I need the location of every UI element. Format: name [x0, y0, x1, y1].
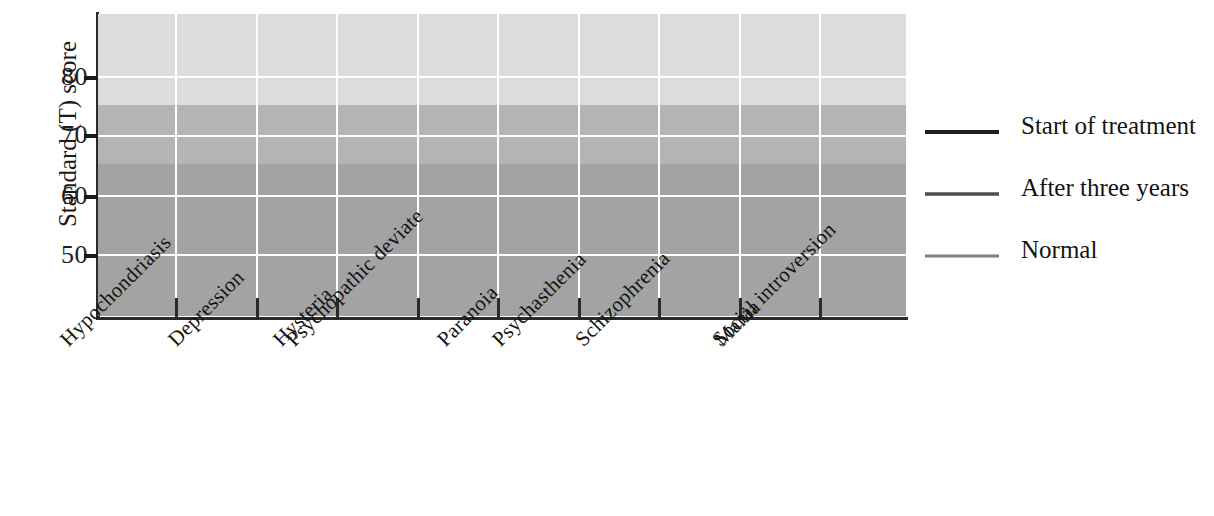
- chart-root: Standard (T) score 80 70 60 50: [0, 0, 1214, 516]
- x-axis-label-social-introversion: Social introversion: [707, 217, 841, 351]
- legend-swatch-start-of-treatment: [925, 128, 999, 136]
- legend-label-after-three-years: After three years: [1021, 174, 1189, 202]
- x-axis-label-depression: Depression: [163, 265, 250, 352]
- legend-swatch-after-three-years: [925, 190, 999, 198]
- legend-label-normal: Normal: [1021, 236, 1097, 264]
- x-axis-label-paranoia: Paranoia: [432, 280, 503, 351]
- x-axis-label-hypochondriasis: Hypochondriasis: [55, 230, 177, 352]
- legend-item-start-of-treatment: Start of treatment: [925, 112, 1205, 174]
- x-axis-label-psychopathic-deviate: Psychopathic deviate: [281, 204, 429, 352]
- legend-label-start-of-treatment: Start of treatment: [1021, 112, 1196, 140]
- legend-item-after-three-years: After three years: [925, 174, 1205, 236]
- legend-swatch-normal: [925, 252, 999, 260]
- legend-item-normal: Normal: [925, 236, 1205, 298]
- chart-legend: Start of treatment After three years Nor…: [925, 112, 1205, 298]
